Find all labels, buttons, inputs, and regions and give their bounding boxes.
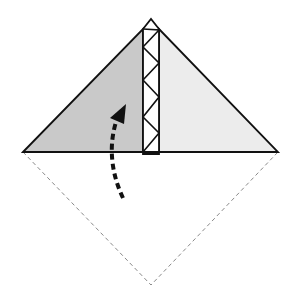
left-flap — [23, 29, 143, 152]
dashed-lower-edge — [23, 152, 278, 285]
right-flap — [159, 29, 278, 152]
origami-fold-diagram — [0, 0, 291, 305]
